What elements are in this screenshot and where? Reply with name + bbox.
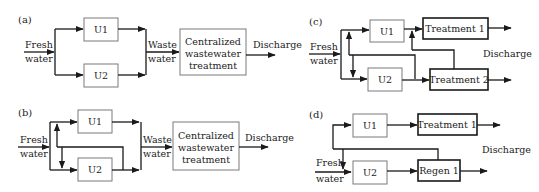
panel-d-discharge-label: Discharge: [482, 144, 531, 155]
panel-c-discharge-label: Discharge: [483, 48, 532, 59]
panel-c-treatment2-label: Treatment 2: [429, 74, 489, 85]
panel-a-u1-label: U1: [94, 24, 108, 35]
panel-b-treatment-label-2: wastewater: [178, 142, 234, 153]
panel-a-treatment-label-2: wastewater: [185, 48, 241, 59]
panel-b-discharge-label: Discharge: [245, 132, 294, 143]
panel-b-treatment-label-1: Centralized: [178, 130, 234, 141]
panel-d-u1-label: U1: [363, 120, 377, 131]
panel-c-regen-recycle-line: [412, 50, 454, 69]
panel-c-fresh-label-1: Fresh: [310, 41, 338, 52]
panel-b-waste-label-2: water: [143, 148, 171, 159]
panel-c-fresh-label-2: water: [310, 55, 338, 66]
panel-b-label: (b): [18, 107, 32, 118]
panel-a-treatment-label-3: treatment: [189, 60, 237, 71]
panel-d-regen1-label: Regen 1: [419, 165, 459, 176]
panel-b-treatment-label-3: treatment: [182, 154, 230, 165]
panel-c-label: (c): [309, 16, 323, 27]
panel-b: (b) Fresh water U1 U2 Waste water Centra…: [18, 107, 294, 181]
panel-c-treatment1-label: Treatment 1: [425, 23, 485, 34]
panel-d-fresh-label-1: Fresh: [316, 157, 344, 168]
panel-a-label: (a): [18, 14, 32, 25]
panel-d: (d) Fresh water U1 U2 Treatment 1 Regen …: [309, 109, 531, 184]
panel-d-fresh-label-2: water: [316, 173, 344, 184]
panel-c-u1-label: U1: [380, 26, 394, 37]
panel-d-regen-recycle-line: [333, 149, 438, 160]
panel-d-u1-inlet: [333, 125, 351, 149]
panel-d-treatment1-label: Treatment 1: [417, 119, 477, 130]
panel-a: (a) Fresh water U1 U2 Waste water Centra…: [18, 14, 302, 87]
panel-b-u1-label: U1: [88, 116, 102, 127]
panel-c: (c) Fresh water U1 U2 Treatment 1 Treatm…: [309, 16, 532, 91]
panel-b-u2-label: U2: [88, 164, 102, 175]
panel-a-fresh-label-2: water: [25, 53, 53, 64]
panel-b-fresh-label-1: Fresh: [20, 134, 48, 145]
panel-a-fresh-label-1: Fresh: [25, 39, 53, 50]
panel-c-u2-label: U2: [378, 74, 392, 85]
panel-a-treatment-label-1: Centralized: [185, 36, 241, 47]
water-network-diagrams: (a) Fresh water U1 U2 Waste water Centra…: [0, 0, 539, 192]
panel-d-label: (d): [309, 109, 323, 120]
panel-a-waste-label-1: Waste: [148, 39, 177, 50]
panel-a-u2-label: U2: [94, 70, 108, 81]
panel-a-discharge-label: Discharge: [253, 39, 302, 50]
panel-d-u2-label: U2: [363, 167, 377, 178]
panel-b-waste-label-1: Waste: [143, 134, 172, 145]
panel-a-waste-label-2: water: [148, 53, 176, 64]
panel-b-fresh-label-2: water: [20, 148, 48, 159]
